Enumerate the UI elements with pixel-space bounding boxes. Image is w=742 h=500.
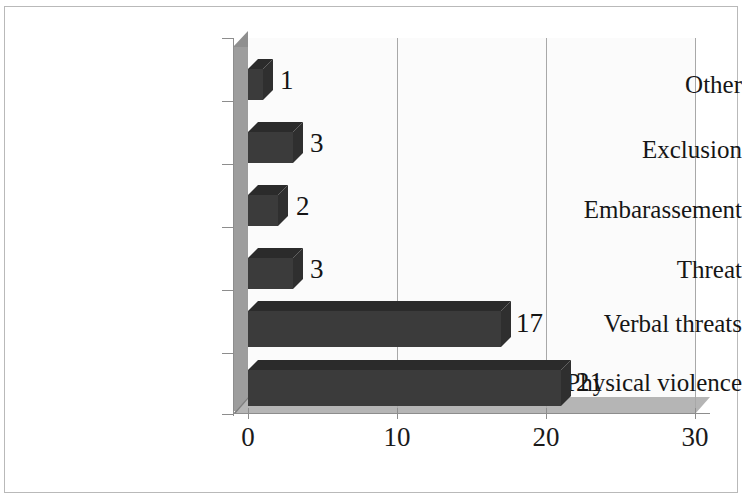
category-label-threat: Threat xyxy=(522,257,742,282)
category-tick xyxy=(222,38,233,39)
category-axis-wall xyxy=(233,47,248,411)
category-tick xyxy=(222,353,233,354)
value-tick-label-30: 30 xyxy=(665,424,725,451)
bar-value-threat: 3 xyxy=(310,256,324,283)
bar-front-face xyxy=(248,132,293,163)
category-tick xyxy=(222,290,233,291)
chart-figure: 0 10 20 30 Other Exclusion Embarassement… xyxy=(0,0,742,500)
value-tick-label-10: 10 xyxy=(367,424,427,451)
bar-top-face xyxy=(248,301,511,311)
value-axis-line xyxy=(233,413,710,414)
value-tick-10 xyxy=(397,408,398,419)
bar-value-verbal-threats: 17 xyxy=(516,310,543,337)
bar-value-embarassement: 2 xyxy=(296,193,310,220)
value-tick-20 xyxy=(546,408,547,419)
bar-exclusion xyxy=(248,122,303,153)
bar-front-face xyxy=(248,195,278,226)
gridline-10 xyxy=(397,38,398,411)
category-tick xyxy=(222,101,233,102)
category-label-exclusion: Exclusion xyxy=(522,137,742,162)
category-label-embarassement: Embarassement xyxy=(522,197,742,222)
value-tick-0 xyxy=(248,408,249,419)
category-tick xyxy=(222,414,233,415)
category-tick xyxy=(222,164,233,165)
category-tick xyxy=(222,227,233,228)
bar-front-face xyxy=(248,69,263,100)
bar-embarassement xyxy=(248,185,288,216)
plot-area: 0 10 20 30 Other Exclusion Embarassement… xyxy=(0,0,742,500)
category-label-other: Other xyxy=(522,72,742,97)
bar-front-face xyxy=(248,258,293,289)
bar-value-exclusion: 3 xyxy=(310,130,324,157)
category-label-verbal-threats: Verbal threats xyxy=(522,311,742,336)
bar-value-physical-violence: 21 xyxy=(576,369,603,396)
bar-top-face xyxy=(248,360,571,370)
value-tick-label-0: 0 xyxy=(218,424,278,451)
bar-threat xyxy=(248,248,303,279)
value-tick-30 xyxy=(695,408,696,419)
bar-physical-violence xyxy=(248,360,571,396)
bar-value-other: 1 xyxy=(280,67,294,94)
category-axis-wall-bevel xyxy=(233,31,248,47)
bar-front-face xyxy=(248,311,501,347)
bar-front-face xyxy=(248,370,561,406)
value-tick-label-20: 20 xyxy=(516,424,576,451)
category-axis-line xyxy=(233,38,234,416)
bar-other xyxy=(248,59,273,90)
bar-verbal-threats xyxy=(248,301,511,337)
